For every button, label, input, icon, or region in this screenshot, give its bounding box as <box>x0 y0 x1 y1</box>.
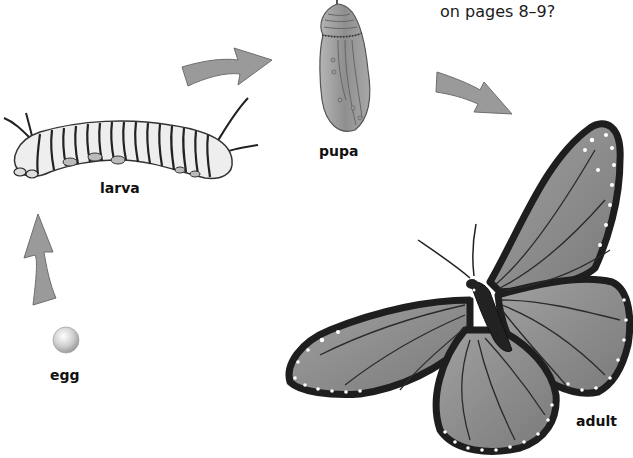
label-larva: larva <box>100 180 140 196</box>
arrow-right-icon <box>182 48 272 86</box>
arrow-up-icon <box>24 214 56 305</box>
life-cycle-diagram: on pages 8–9? <box>0 0 633 458</box>
butterfly-icon <box>289 124 630 452</box>
label-pupa: pupa <box>319 143 358 159</box>
illustration <box>0 0 633 458</box>
egg-icon <box>53 327 79 353</box>
label-adult: adult <box>576 413 617 429</box>
arrow-down-right-icon <box>436 72 512 114</box>
caterpillar-icon <box>4 98 258 178</box>
label-egg: egg <box>50 367 80 383</box>
chrysalis-icon <box>320 0 370 131</box>
